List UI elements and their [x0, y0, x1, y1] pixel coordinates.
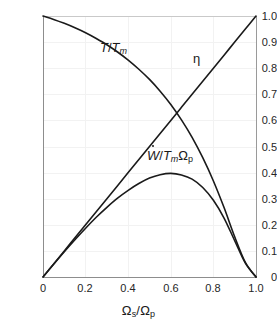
- gridline-vertical: [213, 17, 214, 277]
- gridline-horizontal: [44, 251, 256, 252]
- gridline-horizontal: [44, 94, 256, 95]
- x-tick-label: 0.4: [108, 283, 148, 294]
- y-tick-label: 0.7: [241, 89, 277, 100]
- curve-label-efficiency: η: [193, 52, 200, 65]
- gridline-horizontal: [44, 199, 256, 200]
- gridline-vertical: [128, 17, 129, 277]
- gridline-vertical: [85, 17, 86, 277]
- y-tick-label: 0.3: [241, 194, 277, 205]
- axis-spine-top: [43, 16, 257, 17]
- y-tick-label: 0.6: [241, 115, 277, 126]
- y-tick-label: 0.1: [241, 246, 277, 257]
- chart-figure: 1.0 0.9 0.8 0.7 0.6 0.5 0.4 0.3 0.2 0.1 …: [0, 0, 277, 332]
- x-tick-label: 1.0: [236, 283, 276, 294]
- gridline-horizontal: [44, 225, 256, 226]
- y-tick-label: 1.0: [241, 11, 277, 22]
- gridline-horizontal: [44, 120, 256, 121]
- y-tick-label: 0.9: [241, 37, 277, 48]
- gridline-horizontal: [44, 42, 256, 43]
- gridline-vertical: [171, 17, 172, 277]
- y-tick-label: 0.8: [241, 63, 277, 74]
- x-axis-label: Ωs/Ωp: [0, 303, 277, 319]
- y-tick-label: 0.2: [241, 220, 277, 231]
- x-tick-label: 0.6: [151, 283, 191, 294]
- axis-spine-bottom: [43, 277, 257, 278]
- gridline-horizontal: [44, 68, 256, 69]
- axis-spine-left: [43, 16, 44, 278]
- curve-label-temperature-ratio: T/Tm: [100, 41, 127, 56]
- x-tick-label: 0.2: [65, 283, 105, 294]
- x-tick-label: 0.8: [193, 283, 233, 294]
- y-tick-label: 0.5: [241, 142, 277, 153]
- x-tick-label: 0: [23, 283, 63, 294]
- gridline-horizontal: [44, 173, 256, 174]
- y-tick-label: 0.4: [241, 168, 277, 179]
- curve-label-power-ratio: W/TmΩp: [147, 149, 193, 164]
